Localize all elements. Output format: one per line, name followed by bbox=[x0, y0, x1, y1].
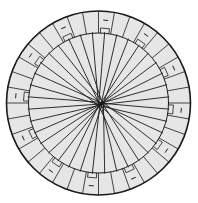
circular-diagram bbox=[0, 0, 198, 203]
